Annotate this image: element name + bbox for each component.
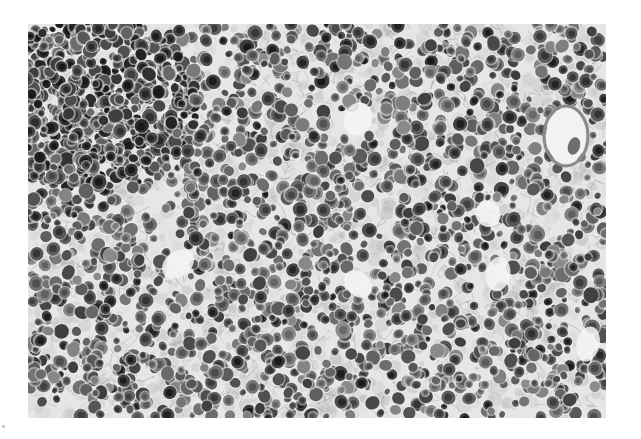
micrograph-panel bbox=[28, 24, 606, 418]
corner-dot-mark bbox=[2, 425, 5, 428]
tissue-image bbox=[28, 24, 606, 418]
